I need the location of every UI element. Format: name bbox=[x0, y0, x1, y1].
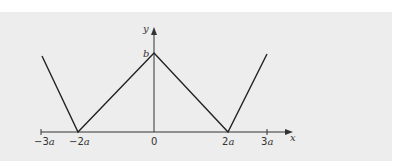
chart-svg: −3a −2a 0 2a 3a x y b bbox=[0, 0, 405, 166]
tick-label-pos2a: 2a bbox=[222, 136, 234, 147]
tick-label-zero: 0 bbox=[151, 136, 157, 147]
tick-label-neg2a: −2a bbox=[69, 136, 90, 147]
tick-label-neg3a: −3a bbox=[34, 136, 55, 147]
peak-label-b: b bbox=[143, 48, 149, 59]
tick-label-pos3a: 3a bbox=[261, 136, 273, 147]
y-axis-arrow-icon bbox=[151, 27, 157, 35]
y-axis-label: y bbox=[142, 23, 149, 34]
x-axis-label: x bbox=[290, 132, 296, 143]
